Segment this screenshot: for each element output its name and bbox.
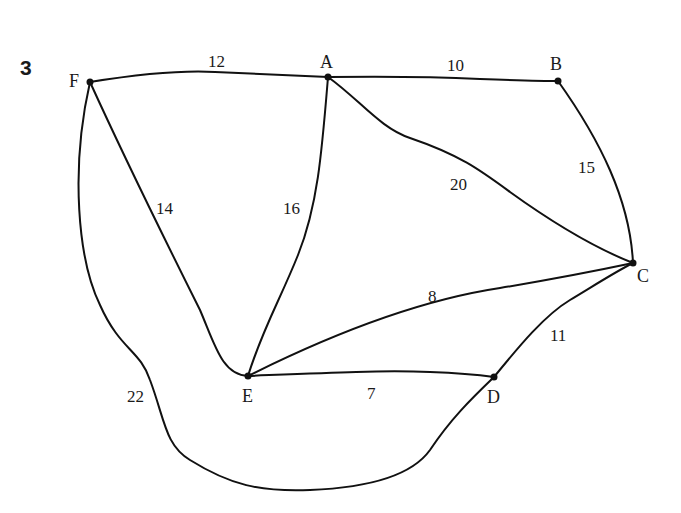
weight-A-C: 20 [450, 175, 467, 194]
edge-D-C [494, 263, 633, 377]
weight-D-C: 11 [550, 326, 566, 345]
node-D [491, 374, 498, 381]
edge-A-B [328, 77, 558, 81]
node-label-F: F [69, 71, 79, 91]
weight-F-D: 22 [127, 387, 144, 406]
node-label-D: D [487, 387, 500, 407]
node-label-C: C [637, 266, 649, 286]
question-number: 3 [20, 56, 32, 79]
node-C [630, 260, 637, 267]
node-B [555, 78, 562, 85]
edge-E-D [248, 371, 494, 377]
edge-E-C [248, 263, 633, 376]
weight-A-B: 10 [447, 56, 464, 75]
weight-F-A: 12 [208, 52, 225, 71]
node-A [325, 74, 332, 81]
weight-F-E: 14 [156, 199, 174, 218]
weight-E-D: 7 [367, 384, 376, 403]
weight-B-C: 15 [578, 158, 595, 177]
node-label-E: E [242, 386, 253, 406]
node-F [87, 79, 94, 86]
weight-A-E: 16 [283, 199, 300, 218]
weight-E-C: 8 [428, 287, 437, 306]
edge-F-E [90, 82, 248, 376]
edge-F-A [90, 71, 328, 82]
edge-B-C [558, 81, 633, 263]
edge-A-E [248, 77, 328, 376]
node-E [245, 373, 252, 380]
node-label-A: A [320, 52, 333, 72]
weighted-graph-diagram: 3 12 10 15 20 14 16 8 11 7 22 F A B C D … [0, 0, 681, 513]
node-label-B: B [550, 54, 562, 74]
